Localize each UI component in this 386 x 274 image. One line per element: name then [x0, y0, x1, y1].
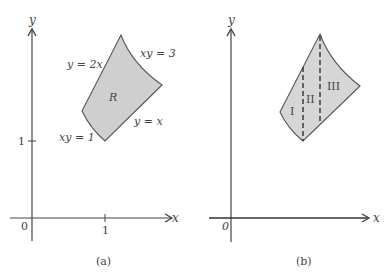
curve-label-yx: y = x: [133, 115, 163, 128]
caption-a: (a): [96, 255, 111, 268]
x-axis-label-a: x: [172, 211, 179, 225]
curve-label-xy3: xy = 3: [140, 47, 176, 60]
origin-label-a: 0: [21, 220, 28, 233]
y-axis-label-b: y: [227, 13, 235, 27]
curve-label-y2x: y = 2x: [66, 58, 103, 71]
caption-b: (b): [296, 255, 312, 268]
subregion-label-2: II: [306, 93, 315, 106]
tick-y-label-a: 1: [18, 135, 25, 148]
panel-b: y x 0 I II III (b): [209, 13, 380, 268]
origin-label-b: 0: [222, 220, 229, 233]
region-label-r: R: [108, 91, 117, 104]
y-axis-label-a: y: [28, 13, 36, 27]
subregion-label-3: III: [327, 80, 340, 93]
x-axis-label-b: x: [373, 211, 380, 225]
panel-a: y x 0 1 1 R y = 2x xy = 3 y = x xy = 1 (…: [10, 13, 179, 268]
diagram-canvas: y x 0 1 1 R y = 2x xy = 3 y = x xy = 1 (…: [0, 0, 386, 274]
curve-label-xy1: xy = 1: [59, 131, 95, 144]
tick-x-label-a: 1: [102, 224, 109, 237]
subregion-label-1: I: [290, 105, 294, 118]
